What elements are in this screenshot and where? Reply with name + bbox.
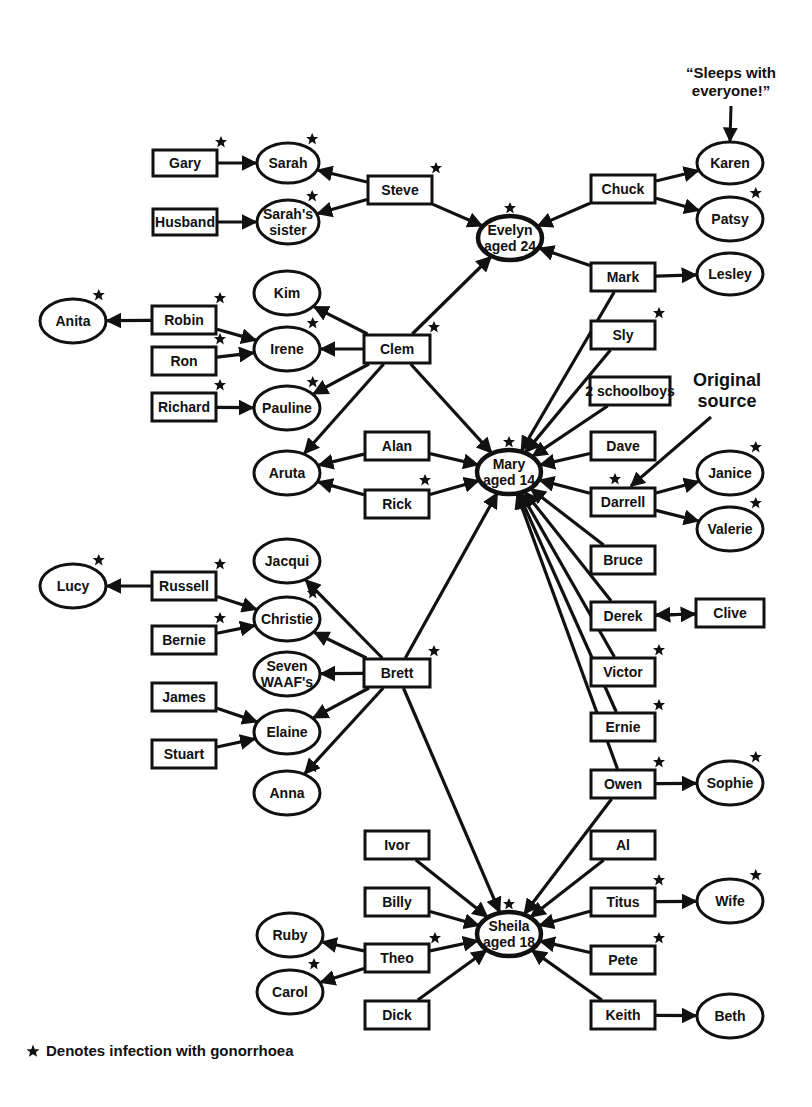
node-derek: Derek bbox=[591, 602, 655, 630]
star-icon bbox=[428, 321, 440, 333]
node-label: Kim bbox=[274, 285, 300, 301]
node-ruby: Ruby bbox=[257, 913, 323, 957]
edge-steve-to-sarahs_sister bbox=[318, 199, 367, 213]
node-label: Patsy bbox=[711, 211, 749, 227]
node-label: WAAF's bbox=[261, 674, 314, 690]
node-label: Bruce bbox=[603, 552, 643, 568]
star-icon bbox=[503, 898, 515, 910]
node-label: Dick bbox=[382, 1007, 412, 1023]
edge-clem-to-kim bbox=[314, 307, 367, 334]
node-label: Pauline bbox=[262, 400, 312, 416]
node-label: Anna bbox=[270, 785, 305, 801]
star-icon bbox=[93, 554, 105, 566]
edge-alan-to-aruta bbox=[319, 454, 364, 465]
edge-ron-to-irene bbox=[217, 353, 253, 357]
node-label: Richard bbox=[158, 399, 210, 415]
star-icon bbox=[750, 869, 762, 881]
star-icon bbox=[653, 756, 665, 768]
node-clem: Clem bbox=[364, 321, 440, 363]
legend-text: Denotes infection with gonorrhoea bbox=[46, 1042, 294, 1059]
node-beth: Beth bbox=[697, 994, 763, 1038]
node-lesley: Lesley bbox=[697, 253, 763, 295]
node-sarah: Sarah bbox=[257, 133, 319, 183]
node-label: Chuck bbox=[602, 181, 645, 197]
node-label: Ruby bbox=[273, 927, 308, 943]
node-label: Christie bbox=[261, 611, 313, 627]
node-label: Lucy bbox=[57, 578, 90, 594]
node-label: Steve bbox=[381, 182, 419, 198]
edge-rick-to-mary bbox=[430, 481, 478, 495]
node-label: aged 24 bbox=[484, 238, 536, 254]
node-label: Aruta bbox=[269, 465, 306, 481]
node-label: Gary bbox=[169, 155, 201, 171]
node-label: Sarah's bbox=[263, 206, 313, 222]
annotation-text: source bbox=[697, 391, 756, 411]
edge-russell-to-christie bbox=[217, 597, 256, 610]
edge-clem-to-evelyn bbox=[412, 257, 491, 334]
edge-james-to-elaine bbox=[217, 708, 257, 721]
node-label: Al bbox=[616, 837, 630, 853]
node-richard: Richard bbox=[152, 379, 226, 421]
star-icon bbox=[308, 958, 320, 970]
edge-theo-to-carol bbox=[321, 968, 364, 982]
edge-darrell-to-valerie bbox=[656, 510, 698, 521]
edge-brett-to-christie bbox=[315, 633, 367, 658]
node-christie: Christie bbox=[254, 587, 320, 641]
star-icon bbox=[307, 376, 319, 388]
node-label: Mark bbox=[607, 269, 640, 285]
node-label: Bernie bbox=[162, 632, 206, 648]
star-icon bbox=[214, 558, 226, 570]
node-janice: Janice bbox=[697, 441, 763, 495]
node-label: Irene bbox=[270, 341, 304, 357]
star-icon bbox=[26, 1044, 40, 1058]
star-icon bbox=[653, 699, 665, 711]
node-billy: Billy bbox=[365, 888, 429, 916]
node-schoolboys: 2 schoolboys bbox=[585, 377, 675, 405]
node-label: Owen bbox=[604, 776, 642, 792]
node-evelyn: Evelynaged 24 bbox=[478, 202, 542, 260]
edge-theo-to-ruby bbox=[322, 942, 364, 951]
node-keith: Keith bbox=[591, 1001, 655, 1029]
node-patsy: Patsy bbox=[697, 187, 763, 241]
node-label: Karen bbox=[710, 155, 750, 171]
star-icon bbox=[653, 307, 665, 319]
node-label: Sophie bbox=[707, 775, 754, 791]
edge-pete-to-sheila bbox=[540, 941, 590, 952]
node-label: 2 schoolboys bbox=[585, 383, 675, 399]
node-russell: Russell bbox=[152, 558, 226, 600]
star-icon bbox=[609, 473, 621, 485]
node-label: Clem bbox=[380, 341, 414, 357]
node-clive: Clive bbox=[696, 599, 764, 627]
node-label: Elaine bbox=[266, 724, 307, 740]
node-ivor: Ivor bbox=[365, 831, 429, 859]
node-karen: Karen bbox=[697, 142, 763, 184]
node-dave: Dave bbox=[591, 432, 655, 460]
star-icon bbox=[419, 474, 431, 486]
edge-rick-to-aruta bbox=[318, 482, 364, 495]
legend: Denotes infection with gonorrhoea bbox=[26, 1042, 294, 1059]
node-label: Sly bbox=[612, 327, 633, 343]
annotation-sleeps_note: “Sleeps witheveryone!” bbox=[686, 64, 776, 141]
node-ron: Ron bbox=[152, 333, 226, 375]
node-label: Billy bbox=[382, 894, 412, 910]
star-icon bbox=[214, 379, 226, 391]
node-valerie: Valerie bbox=[697, 497, 763, 551]
node-husband: Husband bbox=[153, 209, 217, 235]
edge-darrell-to-janice bbox=[656, 482, 698, 494]
node-label: Pete bbox=[608, 952, 638, 968]
node-label: Derek bbox=[604, 608, 643, 624]
node-wife: Wife bbox=[697, 869, 763, 923]
star-icon bbox=[428, 645, 440, 657]
node-label: Dave bbox=[606, 438, 640, 454]
node-lucy: Lucy bbox=[40, 554, 106, 608]
node-label: Valerie bbox=[707, 521, 752, 537]
node-james: James bbox=[152, 683, 216, 711]
node-sarahs_sister: Sarah'ssister bbox=[257, 190, 319, 244]
node-label: Jacqui bbox=[265, 553, 309, 569]
node-irene: Irene bbox=[254, 317, 320, 371]
node-label: Darrell bbox=[601, 494, 645, 510]
edge-bernie-to-christie bbox=[217, 626, 254, 634]
node-pete: Pete bbox=[591, 932, 665, 974]
node-alan: Alan bbox=[365, 432, 429, 460]
annotation-text: “Sleeps with bbox=[686, 64, 776, 81]
